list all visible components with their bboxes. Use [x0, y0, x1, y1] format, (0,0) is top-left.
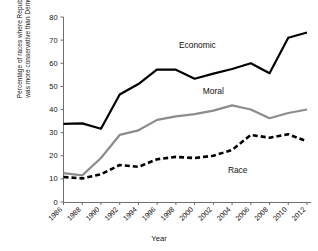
x-tick-label: 1986 — [46, 205, 64, 223]
chart-series-lines — [64, 32, 308, 178]
y-tick-label: 40 — [49, 105, 57, 114]
x-axis-label: Year — [0, 234, 318, 243]
x-tick-label: 2004 — [215, 205, 233, 223]
y-tick-label: 80 — [49, 13, 57, 22]
x-tick-label: 2002 — [196, 205, 214, 223]
y-tick-label: 20 — [49, 151, 57, 160]
x-tick-label: 2012 — [290, 205, 308, 223]
y-tick-label: 60 — [49, 59, 57, 68]
y-tick-label: 50 — [49, 82, 57, 91]
x-tick-label: 1990 — [84, 205, 102, 223]
x-axis-ticks: 1986198819901992199419961998200020022004… — [46, 202, 307, 223]
x-tick-label: 1988 — [65, 205, 83, 223]
series-line-race — [64, 134, 308, 178]
line-chart-plot: 01020304050607080 1986198819901992199419… — [0, 0, 318, 251]
x-tick-label: 2008 — [252, 205, 270, 223]
series-label-race: Race — [228, 165, 248, 175]
x-tick-label: 2000 — [177, 205, 195, 223]
y-tick-label: 70 — [49, 36, 57, 45]
x-tick-label: 1994 — [121, 205, 139, 223]
y-axis-ticks: 01020304050607080 — [49, 13, 63, 207]
y-tick-label: 10 — [49, 174, 57, 183]
x-tick-label: 2010 — [271, 205, 289, 223]
series-line-moral — [64, 105, 308, 175]
x-tick-label: 1998 — [159, 205, 177, 223]
x-tick-label: 1992 — [102, 205, 120, 223]
series-label-economic: Economic — [179, 40, 216, 50]
x-tick-label: 2006 — [234, 205, 252, 223]
chart-figure: Percentage of races where Republican was… — [0, 0, 318, 251]
y-tick-label: 30 — [49, 128, 57, 137]
x-tick-label: 1996 — [140, 205, 158, 223]
series-label-moral: Moral — [203, 86, 224, 96]
